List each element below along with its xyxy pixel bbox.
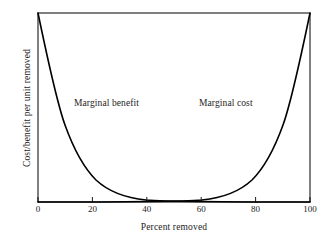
curve-label-marginal-cost: Marginal cost <box>199 98 253 108</box>
x-tick-label-40: 40 <box>132 204 162 214</box>
x-tick-label-100: 100 <box>295 204 323 214</box>
y-axis-title: Cost/benefit per unit removed <box>22 13 32 203</box>
x-tick-label-60: 60 <box>186 204 216 214</box>
x-tick-label-0: 0 <box>23 204 53 214</box>
x-axis-title: Percent removed <box>38 222 310 232</box>
x-tick-label-20: 20 <box>77 204 107 214</box>
x-tick-label-80: 80 <box>241 204 271 214</box>
curve-label-marginal-benefit: Marginal benefit <box>74 98 139 108</box>
